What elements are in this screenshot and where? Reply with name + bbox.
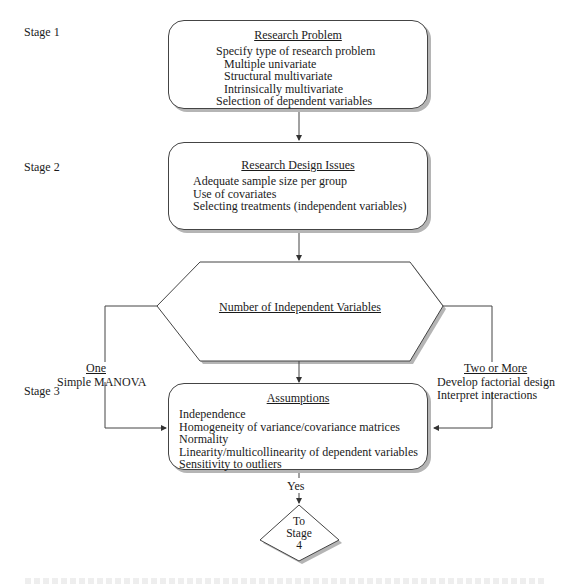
- list-item: Sensitivity to outliers: [179, 458, 427, 471]
- research-problem-title: Research Problem: [169, 28, 427, 42]
- branch-two-or-more-details: Develop factorial design Interpret inter…: [437, 376, 555, 402]
- yes-label: Yes: [287, 479, 304, 494]
- list-item: Structural multivariate: [216, 70, 427, 83]
- branch-one-label: One: [86, 362, 106, 375]
- research-design-list: Adequate sample size per group Use of co…: [169, 175, 427, 213]
- cut-off-caption: [25, 578, 545, 584]
- assumptions-list: Independence Homogeneity of variance/cov…: [169, 408, 427, 471]
- to-stage-4-text: To Stage 4: [279, 515, 319, 551]
- assumptions-title: Assumptions: [169, 391, 427, 405]
- research-design-box: Research Design Issues Adequate sample s…: [168, 142, 428, 230]
- research-design-title: Research Design Issues: [169, 158, 427, 172]
- list-item: Selecting treatments (independent variab…: [193, 200, 427, 213]
- stage-1-label: Stage 1: [24, 25, 60, 40]
- list-item: Adequate sample size per group: [193, 175, 427, 188]
- branch-one-detail: Simple MANOVA: [57, 376, 146, 389]
- list-item: Independence: [179, 408, 427, 421]
- list-item: Normality: [179, 433, 427, 446]
- research-problem-list: Specify type of research problem Multipl…: [169, 45, 427, 108]
- decision-title: Number of Independent Variables: [200, 300, 400, 315]
- list-item: Specify type of research problem: [216, 45, 427, 58]
- stage-3-label: Stage 3: [24, 384, 60, 399]
- assumptions-box: Assumptions Independence Homogeneity of …: [168, 383, 428, 470]
- research-problem-box: Research Problem Specify type of researc…: [168, 20, 428, 109]
- branch-two-or-more-label: Two or More: [464, 362, 527, 375]
- manova-decision-diagram: Stage 1 Stage 2 Stage 3 Research Problem…: [0, 0, 572, 584]
- list-item: Selection of dependent variables: [216, 95, 427, 108]
- stage-2-label: Stage 2: [24, 160, 60, 175]
